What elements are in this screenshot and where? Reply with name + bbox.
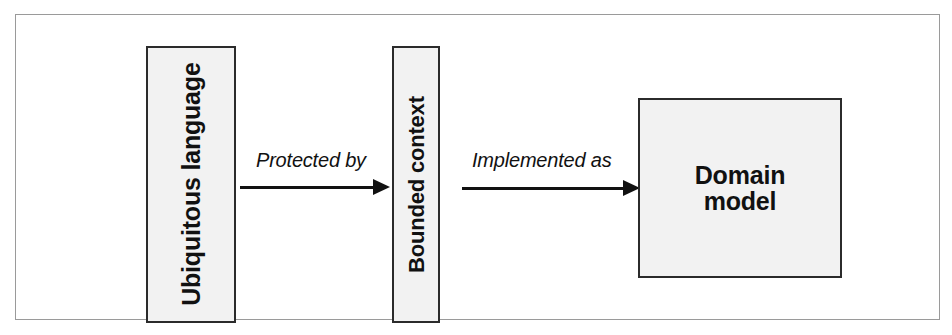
node-domain-model-label-line2: model <box>704 187 777 215</box>
node-domain-model: Domain model <box>638 98 842 278</box>
diagram-figure: Ubiquitous language Protected by Bounded… <box>0 0 952 335</box>
figure-frame: Ubiquitous language Protected by Bounded… <box>15 14 940 320</box>
arrow-shaft <box>462 187 624 190</box>
node-bounded-context-label: Bounded context <box>404 96 427 273</box>
arrowhead-icon <box>373 179 390 195</box>
node-ubiquitous-language-label: Ubiquitous language <box>178 63 204 306</box>
edge-label-protected-by: Protected by <box>256 149 366 172</box>
arrow-shaft <box>240 186 374 189</box>
arrow-protected-by <box>240 177 390 199</box>
arrow-implemented-as <box>462 178 640 200</box>
node-domain-model-label: Domain model <box>695 162 785 215</box>
node-ubiquitous-language: Ubiquitous language <box>146 46 236 323</box>
node-domain-model-label-line1: Domain <box>695 161 785 189</box>
edge-label-implemented-as: Implemented as <box>472 149 612 172</box>
node-bounded-context: Bounded context <box>392 46 440 323</box>
